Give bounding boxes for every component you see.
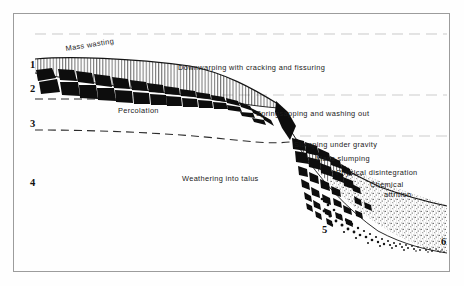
label-springsapping: Springsapping and washing out <box>256 109 369 118</box>
label-slumping-under-gravity: Slumping under gravity <box>294 140 377 149</box>
label-attrition: attrition <box>384 190 411 199</box>
stage-number-6: 6 <box>441 236 446 247</box>
stage-number-4: 4 <box>30 177 36 188</box>
stage-number-2: 2 <box>30 83 35 94</box>
slope-diagram-svg: Mass wasting Downwarping with cracking a… <box>0 0 464 286</box>
stage-number-1: 1 <box>30 59 35 70</box>
figure-frame <box>14 14 450 272</box>
label-weathering-into-talus: Weathering into talus <box>182 174 259 183</box>
label-physical-disintegration: Physical disintegration <box>336 168 418 177</box>
figure-root: Mass wasting Downwarping with cracking a… <box>0 0 464 286</box>
label-percolation: Percolation <box>118 106 159 115</box>
label-mass-slumping: Mass slumping <box>316 154 370 163</box>
stage-number-5: 5 <box>322 224 327 235</box>
label-chemical: Chemical <box>370 180 404 189</box>
label-downwarping: Downwarping with cracking and fissuring <box>178 63 325 72</box>
stage-number-3: 3 <box>30 118 35 129</box>
